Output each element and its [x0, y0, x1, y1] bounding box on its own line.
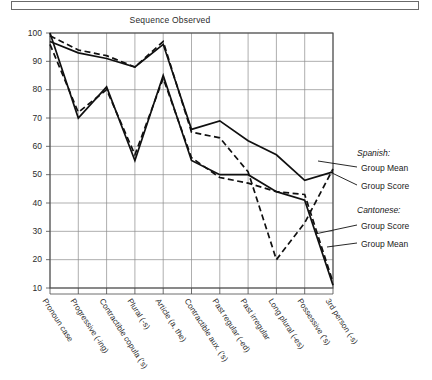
y-tick-label: 90	[16, 57, 42, 65]
y-tick-label: 100	[16, 29, 42, 37]
y-tick-label: 50	[16, 170, 42, 178]
y-tick-label: 30	[16, 227, 42, 235]
y-tick-label: 40	[16, 199, 42, 207]
y-tick-label: 70	[16, 114, 42, 122]
legend-item-spanish-group-score: Group Score	[361, 181, 409, 191]
y-tick-label: 10	[16, 284, 42, 292]
legend-item-cantonese-group-score: Group Score	[361, 221, 409, 231]
axis-ticks	[46, 33, 333, 294]
legend-item-cantonese-group-mean: Group Mean	[361, 239, 408, 249]
legend-header-spanish: Spanish:	[357, 148, 390, 158]
y-tick-label: 20	[16, 255, 42, 263]
legend-leader-lines	[315, 161, 357, 247]
y-tick-label: 60	[16, 142, 42, 150]
legend-item-spanish-group-mean: Group Mean	[361, 163, 408, 173]
legend-header-cantonese: Cantonese:	[357, 205, 400, 215]
y-tick-label: 80	[16, 85, 42, 93]
